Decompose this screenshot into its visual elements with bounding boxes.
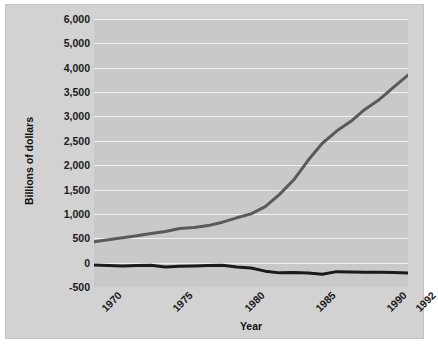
plot-area (94, 19, 408, 287)
y-axis-tick-label: 6,000 (38, 14, 90, 25)
x-axis-tick-label: 1970 (99, 289, 124, 314)
x-axis-tick-label: 1985 (313, 289, 338, 314)
y-axis-tick-label: 3,500 (38, 87, 90, 98)
x-axis-tick-label: 1992 (413, 289, 438, 314)
x-axis-tick-label: 1975 (170, 289, 195, 314)
y-axis-tick-label: 5,000 (38, 38, 90, 49)
y-axis-tick-label: 1,500 (38, 185, 90, 196)
y-axis-tick-label: 2,500 (38, 136, 90, 147)
data-line-upper-series (94, 75, 408, 242)
y-axis-title: Billions of dollars (23, 91, 35, 231)
x-axis-tick-labels: 197019751980198519901992 (94, 289, 414, 323)
x-axis-tick-label: 1990 (384, 289, 409, 314)
data-line-lower-series (94, 265, 408, 274)
y-axis-tick-label: 4,000 (38, 63, 90, 74)
y-axis-tick-label: 500 (38, 233, 90, 244)
data-series-group (94, 19, 408, 287)
y-axis-tick-label: -500 (38, 282, 90, 293)
x-axis-tick-label: 1980 (242, 289, 267, 314)
y-axis-tick-labels: -50005001,0001,5002,0002,5003,0003,5004,… (34, 19, 90, 287)
y-axis-tick-label: 0 (38, 258, 90, 269)
x-axis-title: Year (94, 320, 408, 332)
chart-frame: -50005001,0001,5002,0002,5003,0003,5004,… (5, 4, 424, 339)
y-axis-tick-label: 1,000 (38, 209, 90, 220)
y-axis-tick-label: 3,000 (38, 111, 90, 122)
y-axis-tick-label: 2,000 (38, 160, 90, 171)
